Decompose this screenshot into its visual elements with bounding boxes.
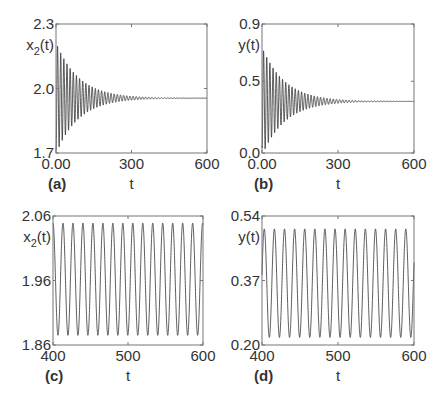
- series-line-b: [262, 51, 414, 149]
- y-tick-label: 2.0: [33, 80, 54, 97]
- y-tick-label: 0.0: [239, 144, 260, 161]
- y-axis-label: y(t): [238, 228, 260, 245]
- y-tick-label: 2.3: [33, 15, 54, 32]
- panel-label: (b): [254, 175, 273, 192]
- x-tick-label: 600: [401, 155, 426, 172]
- y-axis-label: x2(t): [26, 36, 54, 57]
- series-line-a: [56, 46, 207, 149]
- panel-c: 4005006001.861.962.06x2(t)t(c): [22, 207, 216, 384]
- y-tick-label: 1.96: [22, 272, 51, 289]
- plot-frame-b: [262, 24, 414, 153]
- y-tick-label: 0.54: [231, 207, 260, 224]
- plot-frame-d: [262, 216, 414, 345]
- figure: 0.003006001.72.02.3x2(t)t(a)0.003006000.…: [0, 0, 441, 403]
- y-axis-label: y(t): [238, 36, 260, 53]
- series-line-c: [53, 223, 203, 335]
- panel-a: 0.003006001.72.02.3x2(t)t(a): [26, 15, 219, 192]
- plot-frame-a: [56, 24, 207, 153]
- panel-label: (d): [254, 367, 273, 384]
- y-tick-label: 2.06: [22, 207, 51, 224]
- x-tick-label: 500: [325, 347, 350, 364]
- panel-d: 4005006000.200.370.54y(t)t(d): [231, 207, 427, 384]
- series-line-d: [262, 229, 414, 338]
- x-tick-label: 300: [325, 155, 350, 172]
- x-tick-label: 600: [401, 347, 426, 364]
- y-tick-label: 1.86: [22, 336, 51, 353]
- panel-b: 0.003006000.00.50.9y(t)t(b): [238, 15, 426, 192]
- figure-canvas: 0.003006001.72.02.3x2(t)t(a)0.003006000.…: [0, 0, 441, 403]
- x-axis-label: t: [336, 175, 341, 192]
- y-tick-label: 0.9: [239, 15, 260, 32]
- y-tick-label: 0.20: [231, 336, 260, 353]
- x-axis-label: t: [336, 367, 341, 384]
- x-axis-label: t: [126, 367, 131, 384]
- x-tick-label: 600: [194, 155, 219, 172]
- y-tick-label: 0.37: [231, 272, 260, 289]
- y-tick-label: 0.5: [239, 72, 260, 89]
- x-tick-label: 600: [190, 347, 215, 364]
- panel-label: (c): [45, 367, 63, 384]
- x-axis-label: t: [129, 175, 134, 192]
- x-tick-label: 300: [119, 155, 144, 172]
- panel-label: (a): [48, 175, 66, 192]
- y-tick-label: 1.7: [33, 144, 54, 161]
- y-axis-label: x2(t): [23, 228, 51, 249]
- x-tick-label: 500: [115, 347, 140, 364]
